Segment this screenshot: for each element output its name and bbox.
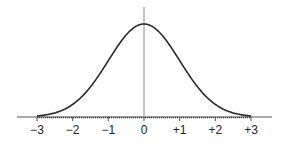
x-tick-label: 0: [141, 123, 148, 137]
x-tick-label: +3: [244, 123, 258, 137]
x-tick-label: −2: [66, 123, 80, 137]
x-tick-label: +2: [208, 123, 222, 137]
x-axis-tick-labels: −3−2−10+1+2+3: [30, 123, 258, 137]
x-tick-label: −1: [101, 123, 115, 137]
x-tick-label: +1: [173, 123, 187, 137]
normal-distribution-chart: −3−2−10+1+2+3: [0, 0, 287, 147]
x-tick-label: −3: [30, 123, 44, 137]
